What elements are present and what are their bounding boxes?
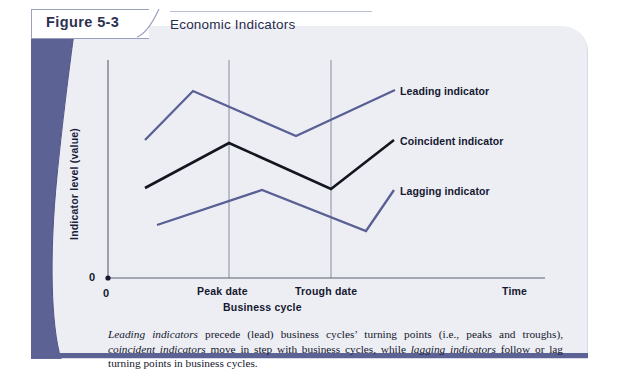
caption-segment-1: precede (lead) business cycles’ turning … [198,328,563,340]
caption-segment-3: move in step with business cycles, while [206,343,411,355]
legend-label-leading-indicator: Leading indicator [400,85,489,97]
origin-label-x: 0 [103,287,109,299]
y-axis-label: Indicator level (value) [68,114,80,254]
caption-segment-4: lagging indicators [411,343,496,355]
x-axis-end-label: Time [502,285,527,297]
caption-segment-2: coincident indicators [108,343,206,355]
xtick-label-peak-date: Peak date [197,285,248,297]
series-line-leading-indicator [145,90,395,140]
title-underline-rule [170,11,372,12]
figure-caption: Leading indicators precede (lead) busine… [108,327,563,371]
origin-label-y: 0 [89,271,95,283]
chart-area: Indicator level (value) 0 0 Peak date Tr… [31,26,588,326]
figure-root: Figure 5-3 Economic Indicators I [0,0,620,389]
caption-segment-0: Leading indicators [108,328,198,340]
legend-label-coincident-indicator: Coincident indicator [400,135,504,147]
series-line-lagging-indicator [157,190,394,231]
series-line-coincident-indicator [145,140,394,189]
legend-label-lagging-indicator: Lagging indicator [400,185,490,197]
xtick-label-trough-date: Trough date [295,285,357,297]
chart-svg [31,26,588,326]
origin-dot [105,275,110,280]
x-axis-title: Business cycle [223,301,302,313]
